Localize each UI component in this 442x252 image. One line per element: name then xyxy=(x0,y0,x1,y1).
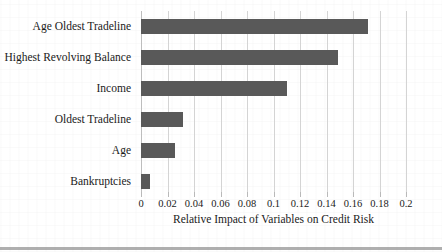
x-tick-label: 0.16 xyxy=(344,198,362,209)
bar-chart: Age Oldest Tradeline Highest Revolving B… xyxy=(0,0,442,252)
bar xyxy=(141,19,368,34)
category-label: Oldest Tradeline xyxy=(55,104,131,135)
category-label: Age Oldest Tradeline xyxy=(33,11,131,42)
plot-area xyxy=(141,11,406,197)
tick-mark xyxy=(141,192,142,197)
bar-row xyxy=(141,166,150,197)
gridline xyxy=(406,11,407,197)
tick-mark xyxy=(406,192,407,197)
category-label: Income xyxy=(97,73,131,104)
tick-mark xyxy=(327,192,328,197)
bar-row xyxy=(141,135,175,166)
x-tick-label: 0.18 xyxy=(370,198,388,209)
tick-mark xyxy=(300,192,301,197)
category-label: Bankruptcies xyxy=(70,166,131,197)
x-axis-tick-labels: 00.020.040.060.080.10.120.140.160.180.2 xyxy=(141,198,406,212)
x-tick-label: 0.2 xyxy=(399,198,412,209)
x-tick-label: 0.02 xyxy=(158,198,176,209)
bar xyxy=(141,50,338,65)
x-tick-label: 0.04 xyxy=(185,198,203,209)
bar-row xyxy=(141,73,287,104)
x-tick-label: 0.08 xyxy=(238,198,256,209)
tick-mark xyxy=(194,192,195,197)
category-axis-labels: Age Oldest Tradeline Highest Revolving B… xyxy=(0,11,136,197)
x-tick-label: 0.14 xyxy=(317,198,335,209)
x-tick-label: 0.1 xyxy=(267,198,280,209)
tick-mark xyxy=(380,192,381,197)
category-label: Highest Revolving Balance xyxy=(5,42,131,73)
bar xyxy=(141,112,183,127)
tick-mark xyxy=(247,192,248,197)
bar-series xyxy=(141,11,406,197)
bar-row xyxy=(141,42,338,73)
x-tick-label: 0.12 xyxy=(291,198,309,209)
tick-mark xyxy=(353,192,354,197)
tick-mark xyxy=(274,192,275,197)
bar xyxy=(141,174,150,189)
bar-row xyxy=(141,11,368,42)
tick-mark xyxy=(221,192,222,197)
bar xyxy=(141,143,175,158)
bar xyxy=(141,81,287,96)
bar-row xyxy=(141,104,183,135)
category-label: Age xyxy=(112,135,131,166)
tick-mark xyxy=(168,192,169,197)
x-tick-label: 0.06 xyxy=(211,198,229,209)
x-axis-title: Relative Impact of Variables on Credit R… xyxy=(141,213,406,225)
x-tick-label: 0 xyxy=(138,198,143,209)
